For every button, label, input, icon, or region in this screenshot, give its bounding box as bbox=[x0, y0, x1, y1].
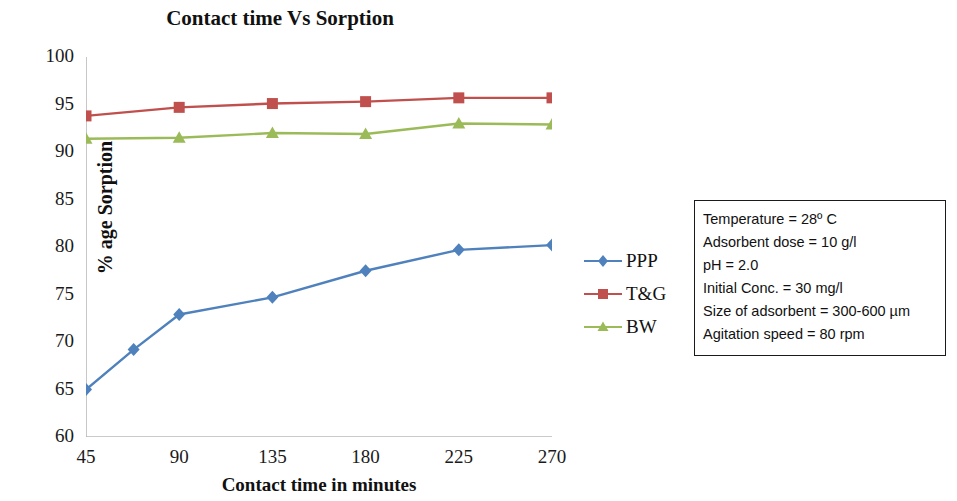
y-tick-label: 70 bbox=[28, 330, 74, 352]
condition-line: Adsorbent dose = 10 g/l bbox=[703, 231, 945, 254]
y-tick-label: 65 bbox=[28, 378, 74, 400]
data-point-marker bbox=[266, 291, 278, 304]
legend-item-t-g[interactable]: T&G bbox=[584, 277, 680, 310]
condition-line: Size of adsorbent = 300-600 µm bbox=[703, 300, 945, 323]
x-tick-label: 135 bbox=[242, 446, 302, 468]
chart-title: Contact time Vs Sorption bbox=[0, 6, 560, 31]
x-tick-label: 90 bbox=[149, 446, 209, 468]
x-tick-label: 270 bbox=[522, 446, 582, 468]
legend-item-label: T&G bbox=[622, 284, 666, 303]
legend-marker-icon bbox=[584, 319, 622, 335]
y-tick-label: 95 bbox=[28, 93, 74, 115]
y-tick-label: 100 bbox=[28, 45, 74, 67]
data-point-marker bbox=[453, 92, 464, 103]
series-line bbox=[86, 124, 552, 139]
y-tick-label: 90 bbox=[28, 140, 74, 162]
condition-line: Agitation speed = 80 rpm bbox=[703, 323, 945, 346]
data-point-marker bbox=[174, 102, 185, 113]
y-tick-label: 80 bbox=[28, 235, 74, 257]
legend-marker-icon bbox=[584, 253, 622, 269]
x-tick-label: 45 bbox=[56, 446, 116, 468]
experiment-conditions-box: Temperature = 28º CAdsorbent dose = 10 g… bbox=[694, 200, 946, 356]
chart-figure: Contact time Vs Sorption % age Sorption … bbox=[0, 0, 680, 501]
data-point-marker bbox=[360, 264, 372, 277]
y-tick-label: 75 bbox=[28, 283, 74, 305]
series-t-g bbox=[86, 92, 552, 121]
chart-legend: PPPT&GBW bbox=[584, 244, 680, 343]
condition-line: Temperature = 28º C bbox=[703, 208, 945, 231]
data-point-marker bbox=[453, 243, 465, 256]
series-ppp bbox=[86, 239, 552, 396]
legend-item-label: PPP bbox=[622, 251, 658, 270]
axes bbox=[86, 57, 552, 437]
y-tick-label: 85 bbox=[28, 188, 74, 210]
data-point-marker bbox=[86, 110, 92, 121]
series-line bbox=[86, 245, 552, 389]
data-point-marker bbox=[267, 98, 278, 109]
legend-item-bw[interactable]: BW bbox=[584, 310, 680, 343]
data-point-marker bbox=[360, 96, 371, 107]
series-bw bbox=[86, 117, 552, 144]
x-axis-label: Contact time in minutes bbox=[86, 474, 552, 496]
x-tick-label: 225 bbox=[429, 446, 489, 468]
legend-marker-icon bbox=[584, 286, 622, 302]
x-tick-label: 180 bbox=[336, 446, 396, 468]
condition-line: Initial Conc. = 30 mg/l bbox=[703, 277, 945, 300]
data-point-marker bbox=[546, 239, 552, 252]
legend-item-label: BW bbox=[622, 317, 657, 336]
series-line bbox=[86, 98, 552, 116]
legend-item-ppp[interactable]: PPP bbox=[584, 244, 680, 277]
condition-line: pH = 2.0 bbox=[703, 254, 945, 277]
data-series bbox=[86, 92, 552, 396]
plot-area bbox=[86, 57, 552, 437]
data-point-marker bbox=[547, 92, 553, 103]
y-tick-label: 60 bbox=[28, 425, 74, 447]
